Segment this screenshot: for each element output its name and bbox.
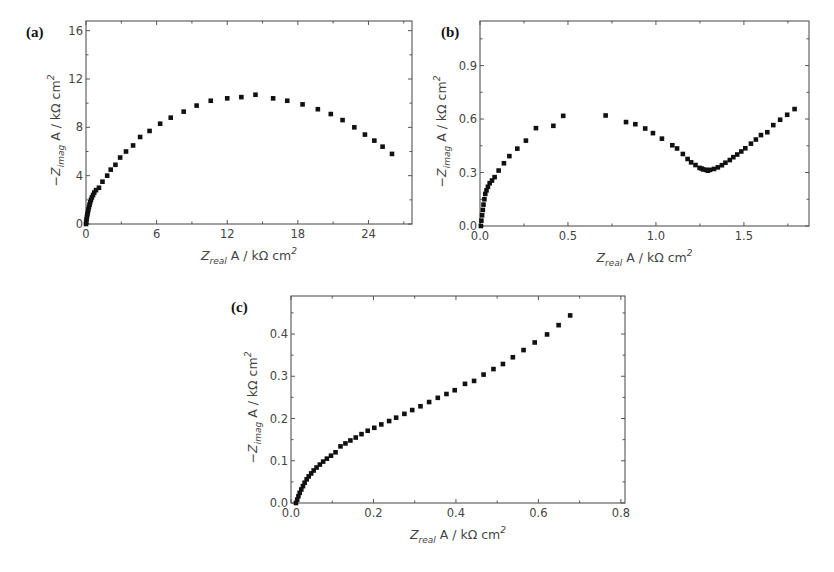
x-tick-label: 1.5 <box>735 229 753 243</box>
data-point <box>444 392 449 397</box>
data-point <box>603 113 608 118</box>
data-point <box>693 163 698 168</box>
data-point <box>225 96 230 101</box>
data-point <box>551 124 556 129</box>
data-point <box>765 130 770 135</box>
y-tick-label: 0.3 <box>270 369 288 383</box>
data-point <box>633 122 638 127</box>
data-point <box>338 444 343 449</box>
data-point <box>675 146 680 151</box>
y-tick-label: 12 <box>68 72 83 86</box>
data-point <box>113 162 118 167</box>
y-axis-title: −Zimag A / kΩ cm2 <box>46 74 66 186</box>
data-point <box>771 123 776 128</box>
chart-panel-b: 0.00.51.01.50.00.30.60.9Zreal A / kΩ cm2… <box>432 21 809 268</box>
data-point <box>480 213 485 218</box>
data-point <box>333 450 338 455</box>
data-point <box>147 129 152 134</box>
y-tick-label: 0.3 <box>459 166 477 180</box>
data-point <box>479 218 484 223</box>
data-point <box>340 118 345 123</box>
data-point <box>435 396 440 401</box>
data-point <box>739 149 744 154</box>
axis-ticks <box>480 21 809 226</box>
y-tick-label: 4 <box>76 169 83 183</box>
data-point <box>427 400 432 405</box>
data-series <box>479 107 797 229</box>
data-point <box>496 168 501 173</box>
x-tick-label: 6 <box>153 227 160 241</box>
data-series <box>294 313 573 505</box>
chart-panel-c: 0.00.20.40.60.80.00.10.20.30.4Zreal A / … <box>231 296 630 545</box>
data-point <box>482 197 487 202</box>
x-tick-label: 0.5 <box>559 229 577 243</box>
x-tick-label: 1.0 <box>647 229 665 243</box>
panel-label: (b) <box>441 24 459 41</box>
data-point <box>681 152 686 157</box>
data-point <box>452 388 457 393</box>
data-point <box>502 161 507 166</box>
x-tick-label: 0.6 <box>529 506 547 520</box>
data-point <box>521 348 526 353</box>
data-point <box>785 112 790 117</box>
data-point <box>352 125 357 130</box>
data-point <box>105 173 110 178</box>
data-point <box>501 362 506 367</box>
data-point <box>365 428 370 433</box>
data-point <box>708 168 713 173</box>
data-point <box>380 144 385 149</box>
data-point <box>158 121 163 126</box>
data-point <box>100 179 105 184</box>
data-point <box>379 422 384 427</box>
data-point <box>97 185 102 190</box>
data-point <box>743 146 748 151</box>
x-axis-title: Zreal A / kΩ cm2 <box>200 246 297 266</box>
data-point <box>479 224 484 229</box>
y-axis-title: −Zimag A / kΩ cm2 <box>243 351 263 463</box>
plot-frame <box>291 296 625 503</box>
data-point <box>759 133 764 138</box>
data-point <box>481 208 486 213</box>
data-point <box>325 456 330 461</box>
y-tick-label: 0.6 <box>459 112 477 126</box>
y-tick-label: 8 <box>76 120 83 134</box>
data-point <box>481 372 486 377</box>
x-axis-title: Zreal A / kΩ cm2 <box>595 248 692 268</box>
data-point <box>208 98 213 103</box>
y-tick-label: 0.1 <box>270 454 288 468</box>
data-point <box>735 152 740 157</box>
x-tick-label: 24 <box>361 227 376 241</box>
data-point <box>138 135 143 140</box>
y-tick-label: 0.0 <box>270 496 288 510</box>
data-point <box>507 154 512 159</box>
data-point <box>239 95 244 100</box>
data-point <box>491 367 496 372</box>
data-point <box>418 404 423 409</box>
data-point <box>651 131 656 136</box>
panel-label: (a) <box>26 24 44 41</box>
data-point <box>472 379 477 384</box>
data-point <box>359 432 364 437</box>
data-series <box>84 92 395 226</box>
data-point <box>343 441 348 446</box>
y-tick-label: 0.0 <box>459 219 477 233</box>
data-point <box>660 136 665 141</box>
data-point <box>124 149 129 154</box>
data-point <box>300 102 305 107</box>
y-tick-label: 16 <box>68 24 83 38</box>
data-point <box>168 115 173 120</box>
data-point <box>532 340 537 345</box>
data-point <box>643 126 648 131</box>
data-point <box>285 98 290 103</box>
x-axis-title: Zreal A / kΩ cm2 <box>409 525 506 545</box>
x-tick-label: 0 <box>82 227 89 241</box>
data-point <box>353 435 358 440</box>
data-point <box>372 138 377 143</box>
y-tick-label: 0.4 <box>270 327 288 341</box>
data-point <box>556 323 561 328</box>
data-point <box>131 143 136 148</box>
data-point <box>394 415 399 420</box>
data-point <box>670 143 675 148</box>
data-point <box>778 117 783 122</box>
x-tick-label: 0.4 <box>447 506 465 520</box>
